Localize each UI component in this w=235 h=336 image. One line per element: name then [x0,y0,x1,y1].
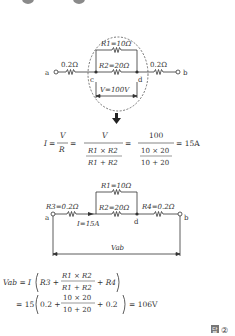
current-label: I=15A [76,220,100,228]
formula-2: Vab = I R3 + R1 × R2 R1 + R2 + R4 = 15 0… [3,272,158,314]
svg-text:= 15A: = 15A [176,139,200,148]
svg-text:0.2 +: 0.2 + [40,300,61,309]
svg-text:= 15: = 15 [16,300,34,309]
svg-text:=: = [70,139,76,148]
voltage-label: V=100V [100,86,130,94]
node-d-dot [135,70,138,73]
node-d-label: d [138,76,143,84]
svg-text:I: I [43,139,48,148]
node-d-label: d [134,218,139,226]
left-resistor-label: 0.2Ω [61,61,78,69]
r2-label: R2=20Ω [98,204,129,212]
node-d-dot [135,212,138,215]
svg-text:= 106V: = 106V [129,300,158,309]
r1-label: R1=10Ω [100,182,131,190]
down-arrow-icon [112,113,121,124]
r2-label: R2=20Ω [98,62,129,70]
current-arrow-icon [88,212,94,216]
r1-label: R1=10Ω [100,40,131,48]
svg-text:10 + 20: 10 + 20 [63,306,91,314]
answer-marker-text: 답 [212,326,218,333]
node-c-dot [94,70,97,73]
formula-1: I = V R = V R1 × R2 R1 + R2 = 100 10 × 2… [43,131,200,167]
svg-text:10 × 20: 10 × 20 [141,147,169,155]
svg-text:R1 + R2: R1 + R2 [61,284,92,292]
vab-label: Vab [111,244,125,252]
svg-text:10 + 20: 10 + 20 [141,159,169,167]
r4-label: R4=0.2Ω [141,203,175,211]
svg-text:R: R [58,145,65,154]
svg-text:R3 +: R3 + [39,278,59,287]
svg-text:10 × 20: 10 × 20 [63,294,91,302]
svg-text:Vab = I: Vab = I [3,278,32,287]
svg-text:R1 + R2: R1 + R2 [87,159,118,167]
svg-text:=: = [125,139,131,148]
r3-label: R3=0.2Ω [45,203,79,211]
node-b-label: b [183,69,188,77]
svg-text:+ 0.2: + 0.2 [97,300,118,309]
solution-figure: 0.2Ω 0.2Ω R1=10Ω R2=20Ω a b c d V=100V I… [0,0,235,336]
node-b-label: b [184,214,189,222]
svg-text:+ R4: + R4 [97,278,116,287]
svg-text:V: V [60,131,67,140]
svg-text:R1 × R2: R1 × R2 [61,272,92,280]
svg-text:100: 100 [149,131,164,140]
answer-choice: ② [221,326,228,335]
right-resistor-label: 0.2Ω [150,61,167,69]
node-a-label: a [45,69,49,77]
node-c-label: c [90,76,94,84]
svg-text:=: = [49,139,55,148]
node-a-label: a [45,214,49,222]
svg-text:R1 × R2: R1 × R2 [87,147,118,155]
svg-text:V: V [102,131,109,140]
circuit-1 [54,37,180,111]
